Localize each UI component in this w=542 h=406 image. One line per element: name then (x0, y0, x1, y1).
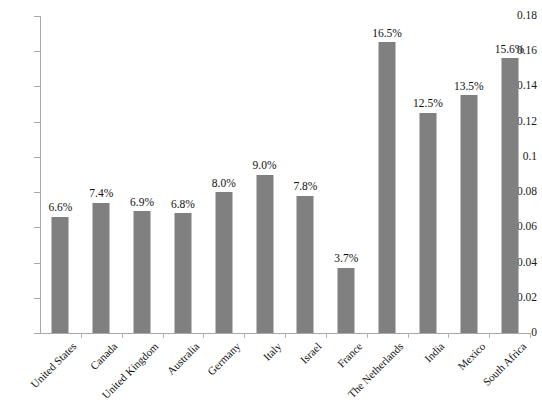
bar-value-label: 15.6% (495, 44, 525, 56)
bar-group: 13.5% (448, 16, 489, 333)
bar-group: 6.9% (122, 16, 163, 333)
x-axis-category-text: Mexico (455, 340, 487, 372)
x-axis-category-text: Israel (298, 340, 324, 366)
bar[interactable] (215, 192, 232, 333)
x-axis-category-text: Italy (260, 340, 283, 363)
bar-group: 8.0% (203, 16, 244, 333)
bar-group: 6.6% (40, 16, 81, 333)
bar-value-label: 7.8% (293, 181, 317, 193)
bar-group: 12.5% (408, 16, 449, 333)
bar-group: 6.8% (163, 16, 204, 333)
bar-value-label: 7.4% (89, 188, 113, 200)
bar-value-label: 3.7% (334, 253, 358, 265)
x-axis-category-text: France (335, 340, 365, 370)
bar[interactable] (134, 211, 151, 333)
bar-group: 15.6% (489, 16, 530, 333)
bar[interactable] (379, 42, 396, 333)
bar[interactable] (52, 217, 69, 333)
bar[interactable] (419, 113, 436, 333)
y-axis-tick (34, 333, 40, 334)
bar[interactable] (501, 58, 518, 333)
bar-group: 16.5% (367, 16, 408, 333)
x-axis-category-text: United States (29, 340, 79, 390)
bar-value-label: 6.8% (171, 199, 195, 211)
bar-value-label: 6.6% (48, 202, 72, 214)
bar-value-label: 12.5% (413, 98, 443, 110)
bar-group: 9.0% (244, 16, 285, 333)
bar-value-label: 9.0% (253, 160, 277, 172)
bar-value-label: 8.0% (212, 178, 236, 190)
bar-group: 3.7% (326, 16, 367, 333)
bar-value-label: 6.9% (130, 197, 154, 209)
bar[interactable] (460, 95, 477, 333)
x-axis-category-text: Germany (205, 340, 242, 377)
bar-group: 7.4% (81, 16, 122, 333)
x-axis-category-text: Canada (88, 340, 120, 372)
bar-value-label: 16.5% (372, 28, 402, 40)
bar-group: 7.8% (285, 16, 326, 333)
bar[interactable] (297, 196, 314, 333)
x-axis-category-text: Australia (164, 340, 201, 377)
x-axis-category-text: India (422, 340, 446, 364)
bar[interactable] (338, 268, 355, 333)
bar-value-label: 13.5% (454, 81, 484, 93)
plot-area: 6.6%7.4%6.9%6.8%8.0%9.0%7.8%3.7%16.5%12.… (40, 16, 530, 333)
bar[interactable] (256, 175, 273, 334)
